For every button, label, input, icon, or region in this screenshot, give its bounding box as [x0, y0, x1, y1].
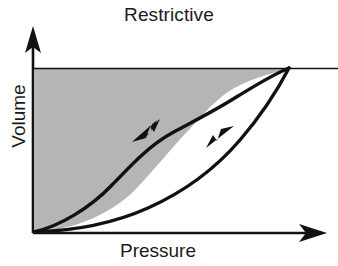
- x-axis-label: Pressure: [33, 240, 283, 262]
- inspiration-arrowhead-icon: [206, 126, 234, 148]
- hysteresis-shaded-area: [35, 69, 289, 232]
- figure-container: Restrictive Volume Pressure: [0, 0, 338, 266]
- pressure-volume-plot: [0, 0, 338, 266]
- y-axis-label: Volume: [8, 51, 30, 181]
